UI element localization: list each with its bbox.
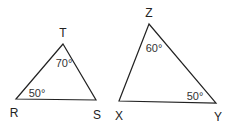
- vertex-label-y: Y: [214, 110, 222, 124]
- vertex-label-x: X: [115, 109, 123, 123]
- angle-label-z: 60°: [146, 42, 163, 54]
- vertex-label-t: T: [59, 26, 67, 40]
- triangle-xyz: Z X Y 60° 50°: [115, 6, 222, 124]
- vertex-label-z: Z: [145, 6, 152, 20]
- angle-label-y: 50°: [187, 90, 204, 102]
- triangle-rst: T R S 70° 50°: [10, 26, 101, 122]
- vertex-label-s: S: [93, 108, 101, 122]
- angle-label-t: 70°: [56, 57, 73, 69]
- angle-label-r: 50°: [29, 87, 46, 99]
- vertex-label-r: R: [10, 106, 19, 120]
- diagram-canvas: T R S 70° 50° Z X Y 60° 50°: [0, 0, 231, 125]
